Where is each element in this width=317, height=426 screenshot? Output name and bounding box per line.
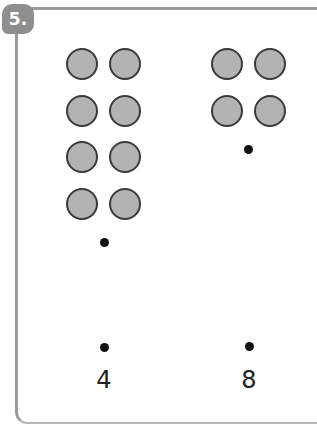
counter-circle [66,48,98,80]
counter-circle [109,188,141,220]
matching-dot-top-left[interactable] [100,238,109,247]
counter-circle [66,95,98,127]
matching-dot-bottom-left[interactable] [100,343,109,352]
matching-dot-bottom-right[interactable] [245,342,254,351]
matching-dot-top-right[interactable] [244,145,253,154]
counter-circle [66,141,98,173]
counter-circle [211,48,243,80]
answer-number-right: 8 [229,366,269,394]
counter-circle [66,188,98,220]
counter-circle [109,95,141,127]
answer-number-left: 4 [84,366,124,394]
counter-circle [211,95,243,127]
question-number-badge: 5. [2,4,34,34]
counter-circle [109,141,141,173]
counter-circle [109,48,141,80]
counter-circle [254,48,286,80]
counter-circle [254,95,286,127]
